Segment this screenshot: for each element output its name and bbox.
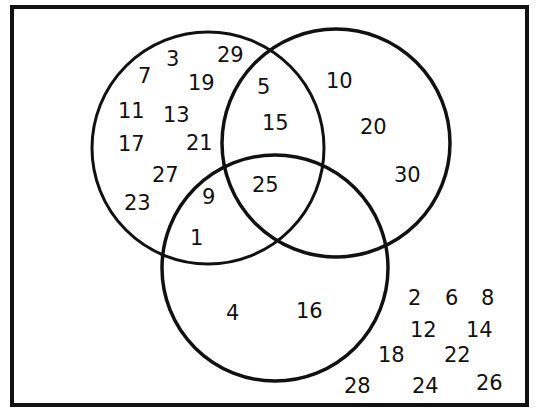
number-label: 20 (360, 115, 387, 139)
number-label: 25 (252, 173, 279, 197)
number-label: 12 (410, 318, 437, 342)
number-label: 14 (466, 318, 493, 342)
number-label: 6 (445, 286, 458, 310)
number-label: 18 (378, 343, 405, 367)
number-label: 1 (190, 226, 203, 250)
number-label: 3 (166, 47, 179, 71)
number-label: 30 (394, 163, 421, 187)
set-b-circle (222, 29, 450, 257)
number-label: 21 (186, 131, 213, 155)
number-label: 29 (217, 43, 244, 67)
number-label: 19 (188, 71, 215, 95)
venn-diagram: 3297191113172127235151020309125416268121… (0, 0, 535, 420)
number-label: 9 (202, 185, 215, 209)
number-label: 15 (262, 111, 289, 135)
number-label: 5 (257, 75, 270, 99)
number-label: 4 (226, 301, 239, 325)
number-label: 8 (481, 286, 494, 310)
number-label: 28 (344, 374, 371, 398)
number-label: 2 (408, 286, 421, 310)
number-label: 27 (152, 163, 179, 187)
number-label: 22 (444, 343, 471, 367)
number-label: 17 (118, 132, 145, 156)
number-label: 23 (124, 191, 151, 215)
number-label: 24 (412, 374, 439, 398)
number-label: 7 (138, 64, 151, 88)
number-label: 26 (476, 371, 503, 395)
number-label: 10 (326, 69, 353, 93)
number-label: 11 (118, 99, 145, 123)
number-label: 13 (163, 103, 190, 127)
number-label: 16 (296, 299, 323, 323)
